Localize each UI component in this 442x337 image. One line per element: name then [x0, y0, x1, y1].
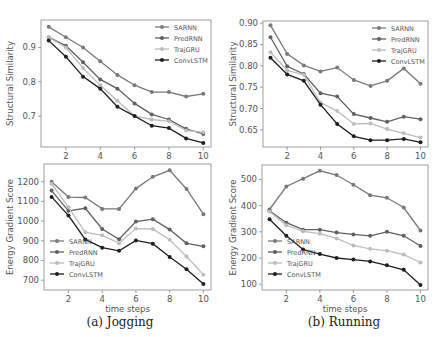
data-point — [50, 182, 54, 186]
legend-label: TrajGRU — [68, 260, 95, 268]
y-tick-label: 0.85 — [239, 39, 258, 49]
x-tick-label: 4 — [98, 151, 103, 161]
data-point — [385, 196, 389, 200]
data-point — [301, 229, 305, 233]
data-point — [151, 175, 155, 179]
data-point — [150, 124, 154, 128]
y-tick-label: 200 — [241, 253, 257, 263]
data-point — [151, 242, 155, 246]
data-point — [418, 260, 422, 264]
data-point — [201, 212, 205, 216]
data-point — [335, 236, 339, 240]
x-tick-label: 10 — [415, 294, 426, 304]
legend-label: ConvLSTM — [174, 57, 208, 65]
legend-marker-icon — [160, 58, 164, 62]
legend-label: TrajGRU — [390, 47, 417, 55]
data-point — [201, 141, 205, 145]
running-ssim-chart: 2468100.650.700.750.800.850.90Structural… — [228, 18, 428, 161]
data-point — [115, 105, 119, 109]
data-point — [50, 195, 54, 199]
data-point — [269, 23, 273, 27]
running-egs-chart: 246810100200300400500Energy Gradient Sco… — [228, 165, 428, 314]
data-point — [402, 205, 406, 209]
data-point — [352, 112, 356, 116]
data-point — [285, 72, 289, 76]
data-point — [319, 69, 323, 73]
y-tick-label: 0.80 — [239, 61, 258, 71]
data-point — [100, 233, 104, 237]
series-line-sarnn — [270, 171, 421, 231]
data-point — [335, 256, 339, 260]
data-point — [115, 99, 119, 103]
data-point — [352, 78, 356, 82]
data-point — [133, 114, 137, 118]
data-point — [419, 117, 423, 121]
data-point — [351, 258, 355, 262]
data-point — [117, 249, 121, 253]
x-tick-label: 4 — [317, 294, 322, 304]
data-point — [418, 244, 422, 248]
legend-marker-icon — [160, 47, 164, 51]
data-point — [185, 187, 189, 191]
data-point — [419, 136, 423, 140]
caption-jogging: (a) Jogging — [87, 315, 154, 329]
x-tick-label: 2 — [284, 151, 289, 161]
legend-marker-icon — [377, 26, 381, 30]
legend-marker-icon — [55, 250, 59, 254]
legend-label: PredRNN — [69, 249, 98, 257]
data-point — [50, 189, 54, 193]
y-axis-label: Energy Gradient Score — [5, 179, 15, 275]
data-point — [151, 217, 155, 221]
data-point — [418, 283, 422, 287]
jogging-ssim-chart: 2468100.70.80.9Structural SimilaritySARN… — [5, 20, 211, 161]
data-point — [98, 77, 102, 81]
data-point — [402, 115, 406, 119]
x-tick-label: 6 — [133, 294, 138, 304]
data-point — [318, 252, 322, 256]
data-point — [335, 173, 339, 177]
data-point — [134, 219, 138, 223]
data-point — [369, 122, 373, 126]
data-point — [302, 73, 306, 77]
data-point — [64, 55, 68, 59]
data-point — [168, 255, 172, 259]
x-axis-label: time steps — [105, 304, 150, 314]
data-point — [133, 101, 137, 105]
legend-marker-icon — [273, 261, 277, 265]
data-point — [201, 282, 205, 286]
data-point — [66, 214, 70, 218]
data-point — [47, 35, 51, 39]
data-point — [184, 129, 188, 133]
data-point — [83, 195, 87, 199]
data-point — [368, 259, 372, 263]
y-tick-label: 1000 — [17, 216, 39, 226]
data-point — [134, 238, 138, 242]
data-point — [184, 95, 188, 99]
data-point — [268, 217, 272, 221]
x-tick-label: 4 — [318, 151, 323, 161]
data-point — [81, 75, 85, 79]
data-point — [335, 66, 339, 70]
y-tick-label: 0.75 — [239, 82, 258, 92]
legend-label: ConvLSTM — [69, 271, 103, 279]
x-tick-label: 6 — [351, 294, 356, 304]
data-point — [269, 50, 273, 54]
legend: SARNNPredRNNTrajGRUConvLSTM — [155, 24, 208, 65]
data-point — [81, 60, 85, 64]
legend-marker-icon — [55, 239, 59, 243]
legend-label: TrajGRU — [286, 260, 313, 268]
legend-marker-icon — [377, 37, 381, 41]
data-point — [335, 231, 339, 235]
y-tick-label: 0.8 — [22, 77, 36, 87]
data-point — [269, 35, 273, 39]
data-point — [402, 234, 406, 238]
x-tick-label: 2 — [284, 294, 289, 304]
data-point — [402, 131, 406, 135]
jogging-egs-chart: 246810700800900100011001200Energy Gradie… — [5, 164, 211, 314]
data-point — [133, 83, 137, 87]
data-point — [385, 249, 389, 253]
data-point — [117, 207, 121, 211]
data-point — [168, 238, 172, 242]
caption-running: (b) Running — [308, 315, 381, 329]
legend-marker-icon — [273, 239, 277, 243]
